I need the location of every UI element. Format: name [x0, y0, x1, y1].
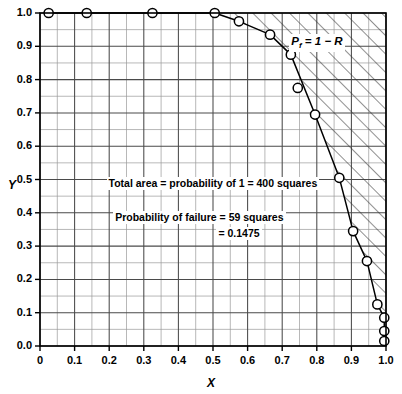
annotation-total-area: Total area = probability of 1 = 400 squa… [107, 177, 320, 190]
annotation-probability-failure: Probability of failure = 59 squares [113, 211, 285, 224]
x-axis-title: X [207, 376, 215, 390]
y-tick-label: 0.3 [0, 239, 32, 251]
y-tick-label: 0.8 [0, 73, 32, 85]
y-tick-label: 0.0 [0, 339, 32, 351]
failure-probability-label: Pf = 1 − R [289, 34, 344, 51]
y-tick-label: 0.9 [0, 39, 32, 51]
y-tick-label: 0.4 [0, 206, 32, 218]
x-tick-label: 1.0 [366, 354, 402, 366]
y-tick-label: 0.1 [0, 306, 32, 318]
y-tick-label: 1.0 [0, 6, 32, 18]
y-tick-label: 0.2 [0, 272, 32, 284]
probability-of-failure-chart: 0.00.10.20.30.40.50.60.70.80.91.0 00.10.… [0, 0, 402, 394]
chart-canvas [0, 0, 402, 394]
y-tick-label: 0.6 [0, 139, 32, 151]
y-axis-title: Y [8, 178, 16, 192]
y-tick-label: 0.7 [0, 106, 32, 118]
annotation-probability-value: = 0.1475 [216, 227, 261, 240]
